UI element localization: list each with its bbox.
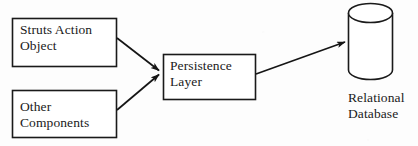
edge-other-to-persistence	[117, 75, 159, 111]
node-label-relational-database: Relational Database	[348, 90, 418, 122]
diagram-canvas: Struts Action Object Other Components Pe…	[0, 0, 418, 146]
edge-struts-to-persistence	[117, 38, 159, 71]
node-label-struts-action-object: Struts Action Object	[20, 22, 114, 54]
node-label-persistence-layer: Persistence Layer	[170, 58, 254, 90]
node-label-other-components: Other Components	[20, 99, 114, 131]
node-relational-database-cylinder	[349, 4, 393, 80]
edge-persistence-to-database	[256, 42, 345, 74]
